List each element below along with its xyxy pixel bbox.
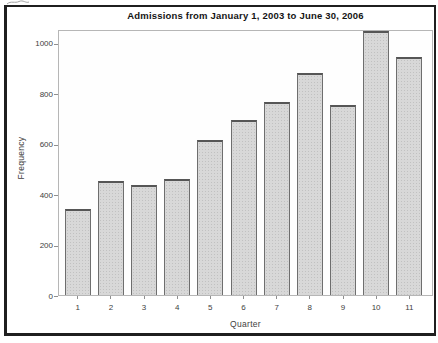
bar-quarter-1: [65, 209, 91, 295]
bar-quarter-5: [197, 140, 223, 295]
x-tick-label: 1: [68, 303, 88, 312]
x-tick-label: 6: [234, 303, 254, 312]
y-tick-mark: [54, 44, 58, 45]
x-tick-label: 3: [134, 303, 154, 312]
x-tick-mark: [77, 296, 78, 299]
y-axis-title: Frequency: [16, 123, 26, 193]
bar-quarter-3: [131, 185, 157, 295]
x-tick-mark: [309, 296, 310, 299]
bar-quarter-9: [330, 105, 356, 296]
y-tick-label: 1000: [24, 39, 53, 48]
x-tick-mark: [409, 296, 410, 299]
bar-quarter-10: [363, 31, 389, 295]
x-tick-label: 11: [399, 303, 419, 312]
x-tick-mark: [376, 296, 377, 299]
bar-quarter-11: [396, 57, 422, 296]
x-tick-mark: [276, 296, 277, 299]
x-tick-mark: [144, 296, 145, 299]
plot-area: [58, 30, 433, 296]
figure-canvas: Admissions from January 1, 2003 to June …: [0, 0, 438, 343]
x-tick-mark: [210, 296, 211, 299]
x-tick-label: 8: [300, 303, 320, 312]
y-tick-mark: [54, 94, 58, 95]
chart-title: Admissions from January 1, 2003 to June …: [58, 10, 433, 21]
x-tick-label: 2: [101, 303, 121, 312]
bar-quarter-4: [164, 179, 190, 295]
x-tick-mark: [177, 296, 178, 299]
x-tick-mark: [110, 296, 111, 299]
x-tick-mark: [243, 296, 244, 299]
y-tick-mark: [54, 195, 58, 196]
y-tick-label: 200: [24, 241, 53, 250]
x-axis-title: Quarter: [58, 319, 433, 329]
x-tick-mark: [343, 296, 344, 299]
bar-quarter-8: [297, 73, 323, 295]
x-tick-label: 5: [200, 303, 220, 312]
bar-quarter-7: [264, 102, 290, 295]
y-tick-label: 400: [24, 191, 53, 200]
y-tick-label: 0: [24, 292, 53, 301]
y-tick-label: 600: [24, 140, 53, 149]
x-tick-label: 4: [167, 303, 187, 312]
x-tick-label: 7: [267, 303, 287, 312]
y-tick-mark: [54, 296, 58, 297]
y-tick-label: 800: [24, 90, 53, 99]
x-tick-label: 10: [366, 303, 386, 312]
bar-quarter-2: [98, 181, 124, 295]
y-tick-mark: [54, 246, 58, 247]
y-tick-mark: [54, 145, 58, 146]
bar-quarter-6: [231, 120, 257, 295]
x-tick-label: 9: [333, 303, 353, 312]
